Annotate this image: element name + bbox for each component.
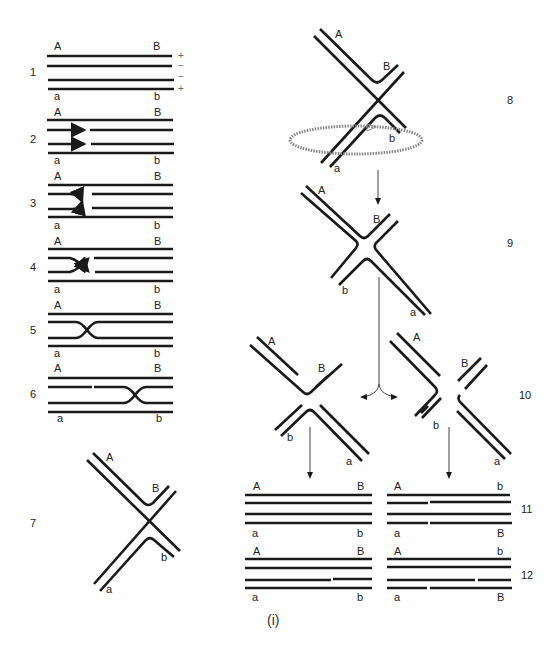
label-B: B <box>153 40 160 52</box>
label-A: A <box>253 480 261 492</box>
label-B: B <box>154 170 161 182</box>
label-a: a <box>54 283 61 295</box>
step-11-left-products: A B a b <box>245 480 372 539</box>
step-3-strand-invasion: 3 A B a b <box>30 170 173 231</box>
label-B: B <box>497 591 504 603</box>
label-A: A <box>394 480 402 492</box>
label-B: B <box>154 299 161 311</box>
label-A: A <box>54 299 62 311</box>
polarity-minus-bottom: − <box>178 71 184 82</box>
step-5-number: 5 <box>30 324 36 336</box>
label-B: B <box>152 482 159 494</box>
step-9-number: 9 <box>507 237 513 249</box>
label-B: B <box>461 357 468 369</box>
label-B: B <box>318 362 325 374</box>
step-8-number: 8 <box>507 94 513 106</box>
step-12-number: 12 <box>521 569 533 581</box>
step-1-duplexes: 1 A B + − − + a b <box>30 40 184 102</box>
arrow-head <box>375 198 381 205</box>
step-5-ligation: 5 A B a b <box>30 299 173 359</box>
label-a: a <box>252 591 259 603</box>
step-4-number: 4 <box>30 261 36 273</box>
step-8-rotation: 8 A B b a <box>290 28 513 174</box>
polarity-minus-top: − <box>178 60 184 71</box>
label-b: b <box>357 527 363 539</box>
step-10-number: 10 <box>519 389 531 401</box>
label-a: a <box>410 306 417 318</box>
label-b: b <box>287 431 293 443</box>
step-11-right-products: 11 A b a B <box>387 480 532 539</box>
split-arrow-9-to-10 <box>360 277 398 400</box>
label-b: b <box>154 347 160 359</box>
label-A: A <box>335 28 343 40</box>
label-b: b <box>154 154 160 166</box>
label-A: A <box>54 362 62 374</box>
label-B: B <box>154 362 161 374</box>
label-a: a <box>494 455 501 467</box>
step-9-isomerized-junction: 9 A B b a <box>301 184 513 318</box>
label-B: B <box>383 60 390 72</box>
step-7-number: 7 <box>30 517 36 529</box>
label-b: b <box>497 545 503 557</box>
label-b: b <box>161 551 167 563</box>
label-a: a <box>334 162 341 174</box>
step-6-number: 6 <box>30 388 36 400</box>
label-a: a <box>394 527 401 539</box>
label-b: b <box>154 283 160 295</box>
label-b: b <box>154 90 160 102</box>
recombination-diagram: 1 A B + − − + a b 2 A B a b 3 A B <box>0 0 559 663</box>
step-12-right-products: 12 A b a B <box>387 545 533 603</box>
step-12-left-products: A B a b <box>245 545 372 603</box>
label-b: b <box>389 132 395 144</box>
label-a: a <box>394 591 401 603</box>
label-A: A <box>54 170 62 182</box>
label-A: A <box>318 184 326 196</box>
label-a: a <box>54 154 61 166</box>
label-b: b <box>154 219 160 231</box>
label-a: a <box>54 219 61 231</box>
polarity-plus-bottom: + <box>178 83 184 94</box>
label-A: A <box>413 331 421 343</box>
step-2-nicking: 2 A B a b <box>30 106 174 166</box>
label-B: B <box>154 106 161 118</box>
arrow-head <box>446 472 452 479</box>
label-b: b <box>433 419 439 431</box>
step-1-number: 1 <box>30 66 36 78</box>
label-a: a <box>346 455 353 467</box>
arrow-head <box>307 472 313 479</box>
label-A: A <box>268 335 276 347</box>
label-A: A <box>106 451 114 463</box>
label-b: b <box>342 284 348 296</box>
label-A: A <box>253 545 261 557</box>
step-2-number: 2 <box>30 133 36 145</box>
label-B: B <box>357 480 364 492</box>
label-a: a <box>54 347 61 359</box>
label-b: b <box>497 480 503 492</box>
label-B: B <box>497 527 504 539</box>
figure-caption: (i) <box>267 612 279 628</box>
step-4-crossed-strands: 4 A B a b <box>30 235 173 295</box>
label-A: A <box>54 106 62 118</box>
step-7-holliday-junction: 7 A B b a <box>30 451 180 595</box>
label-a: a <box>54 90 61 102</box>
label-B: B <box>154 235 161 247</box>
label-a: a <box>106 583 113 595</box>
step-11-number: 11 <box>521 503 532 515</box>
label-A: A <box>54 40 62 52</box>
label-A: A <box>394 545 402 557</box>
label-b: b <box>357 591 363 603</box>
step-6-branch-migration: 6 A B a b <box>30 362 173 424</box>
step-3-number: 3 <box>30 197 36 209</box>
label-a: a <box>57 412 64 424</box>
step-10-right-cut: 10 A B b a <box>390 331 531 467</box>
label-a: a <box>252 527 259 539</box>
label-b: b <box>156 412 162 424</box>
label-B: B <box>357 545 364 557</box>
label-A: A <box>54 235 62 247</box>
